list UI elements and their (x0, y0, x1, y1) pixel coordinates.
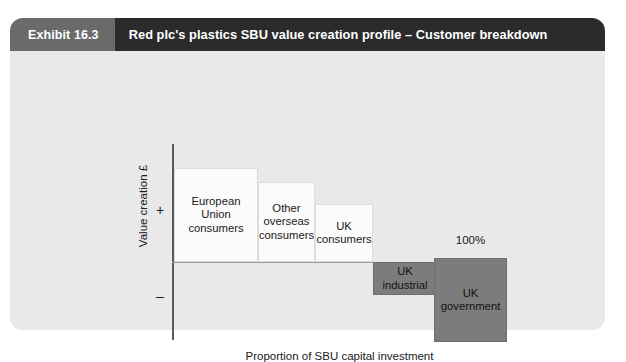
y-axis-positive-sign: + (156, 203, 164, 217)
y-axis-label: Value creation £ (132, 151, 154, 261)
x-axis-end-annotation: 100% (434, 234, 507, 246)
bar-other-overseas-consumers: Other overseas consumers (258, 182, 315, 262)
exhibit-card: Exhibit 16.3 Red plc's plastics SBU valu… (10, 18, 605, 330)
bar-label: European Union consumers (188, 195, 243, 235)
bar-uk-consumers: UK consumers (315, 204, 373, 262)
y-axis-label-text: Value creation £ (137, 165, 149, 247)
bar-european-union-consumers: European Union consumers (174, 168, 258, 262)
bar-label: UK industrial (382, 265, 427, 292)
chart-plot-area: Value creation £ + – European Union cons… (10, 51, 605, 330)
bar-label: Other overseas consumers (259, 202, 314, 242)
bar-uk-government: UK government (434, 258, 507, 342)
y-axis-negative-sign: – (156, 289, 164, 303)
bar-label: UK government (441, 287, 501, 314)
exhibit-header: Exhibit 16.3 Red plc's plastics SBU valu… (10, 18, 605, 51)
x-axis-caption: Proportion of SBU capital investment (172, 350, 507, 362)
bar-label: UK consumers (316, 220, 371, 247)
exhibit-title: Red plc's plastics SBU value creation pr… (115, 18, 605, 51)
exhibit-number-badge: Exhibit 16.3 (10, 18, 115, 51)
bar-uk-industrial: UK industrial (373, 262, 437, 295)
